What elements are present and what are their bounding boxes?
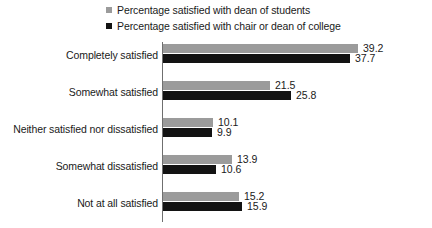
legend-item-label: Percentage satisfied with dean of studen… (117, 4, 310, 16)
bar-value-label: 37.7 (355, 52, 375, 65)
bar-series-chair-or-dean-of-college (163, 91, 291, 100)
legend-item-chair-or-dean-of-college: Percentage satisfied with chair or dean … (106, 19, 426, 33)
bar-series-dean-of-students (163, 81, 270, 90)
chart-legend: Percentage satisfied with dean of studen… (106, 3, 426, 35)
bar-value-label: 25.8 (296, 89, 316, 102)
category-label: Not at all satisfied (0, 196, 158, 210)
bar-group: Somewhat satisfied 21.5 25.8 (0, 81, 432, 104)
bar-value-label: 15.9 (247, 200, 267, 213)
category-label: Somewhat satisfied (0, 85, 158, 99)
category-label: Neither satisfied nor dissatisfied (0, 122, 158, 136)
bar-series-chair-or-dean-of-college (163, 165, 216, 174)
category-label: Somewhat dissatisfied (0, 159, 158, 173)
legend-item-dean-of-students: Percentage satisfied with dean of studen… (106, 3, 426, 17)
bar-series-chair-or-dean-of-college (163, 202, 242, 211)
bar-value-label: 9.9 (217, 126, 232, 139)
square-marker-icon (106, 7, 112, 13)
bar-group: Somewhat dissatisfied 13.9 10.6 (0, 155, 432, 178)
plot-area: Completely satisfied 39.2 37.7 Somewhat … (0, 38, 432, 228)
bar-series-dean-of-students (163, 118, 213, 127)
bar-group: Neither satisfied nor dissatisfied 10.1 … (0, 118, 432, 141)
legend-item-label: Percentage satisfied with chair or dean … (117, 20, 341, 32)
bar-series-chair-or-dean-of-college (163, 128, 212, 137)
bar-value-label: 10.6 (221, 163, 241, 176)
bar-group: Completely satisfied 39.2 37.7 (0, 44, 432, 67)
bar-series-dean-of-students (163, 192, 239, 201)
bar-chart-figure: Percentage satisfied with dean of studen… (0, 0, 432, 228)
square-marker-icon (106, 23, 112, 29)
bar-group: Not at all satisfied 15.2 15.9 (0, 192, 432, 215)
bar-series-chair-or-dean-of-college (163, 54, 350, 63)
bar-series-dean-of-students (163, 44, 358, 53)
category-label: Completely satisfied (0, 48, 158, 62)
